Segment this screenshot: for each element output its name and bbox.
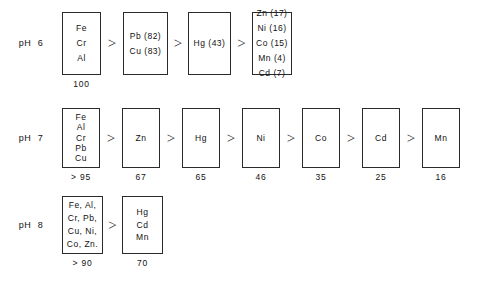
element-box-r1-c1: Zn [122,108,160,168]
element-box-r1-c4: Co [302,108,340,168]
box-value-r0-c0: 100 [73,79,90,89]
box-line: Mn [435,134,448,143]
box-line: Ni [256,134,265,143]
greater-than-separator: > [220,108,242,168]
element-box-r1-c6: Mn [422,108,460,168]
box-value-r2-c0: > 90 [73,258,93,268]
box-line: Hg (43) [194,39,226,48]
box-value-r1-c0: > 95 [71,172,91,182]
box-cell-r0-c2: Hg (43) [188,12,231,79]
ph-label-row-0: pH 6 [0,12,62,75]
element-box-r2-c0: Fe, Al, Cr, Pb, Cu, Ni, Co, Zn. [62,196,103,254]
element-box-r0-c0: Fe Cr Al [62,12,101,75]
box-cell-r1-c5: Cd 25 [362,108,400,182]
box-value-r1-c3: 46 [255,172,266,182]
box-line: Cu [75,154,87,163]
box-line: Al [77,54,86,63]
element-box-r2-c1: Hg Cd Mn [122,196,163,254]
box-line: Pb [75,144,86,153]
box-cell-r0-c3: Zn (17) Ni (16) Co (15) Mn (4) Cd (7) [252,12,292,79]
greater-than-separator: > [340,108,362,168]
element-box-r0-c3: Zn (17) Ni (16) Co (15) Mn (4) Cd (7) [252,12,292,75]
element-box-r1-c0: Fe Al Cr Pb Cu [62,108,100,168]
box-line: Ni (16) [257,24,286,33]
greater-than-separator: > [168,12,188,75]
box-line: Cd [375,134,387,143]
box-cell-r1-c4: Co 35 [302,108,340,182]
greater-than-separator: > [100,108,122,168]
greater-than-separator: > [400,108,422,168]
sequence-row-1: Fe Al Cr Pb Cu > 95 > Zn 67 > Hg [62,108,460,182]
element-box-r0-c2: Hg (43) [188,12,231,75]
greater-than-separator: > [280,108,302,168]
diagram-row-ph8: pH 8 Fe, Al, Cr, Pb, Cu, Ni, Co, Zn. > 9… [0,196,481,268]
box-cell-r1-c3: Ni 46 [242,108,280,182]
element-box-r1-c3: Ni [242,108,280,168]
box-cell-r0-c1: Pb (82) Cu (83) [123,12,168,79]
box-line: Fe [76,113,87,122]
sequence-row-0: Fe Cr Al 100 > Pb (82) Cu (83) > Hg (43) [62,12,292,89]
box-value-r1-c5: 25 [375,172,386,182]
box-line: Co [315,134,327,143]
box-cell-r2-c1: Hg Cd Mn 70 [122,196,163,268]
box-line: Al [77,123,86,132]
box-line: Fe [76,24,87,33]
element-box-r0-c1: Pb (82) Cu (83) [123,12,168,75]
element-box-r1-c5: Cd [362,108,400,168]
ph-label-row-2: pH 8 [0,196,62,254]
ph-sequence-diagram: pH 6 Fe Cr Al 100 > Pb (82) Cu (83) > [0,0,481,282]
box-line: Cd (7) [259,69,286,78]
box-line: Cu, Ni, [68,227,97,236]
box-cell-r1-c6: Mn 16 [422,108,460,182]
box-line: Hg [137,208,149,217]
box-line: Cr, Pb, [68,214,97,223]
box-value-r1-c6: 16 [435,172,446,182]
box-line: Pb (82) [130,32,161,41]
box-line: Fe, Al, [69,201,97,210]
box-cell-r1-c2: Hg 65 [182,108,220,182]
box-line: Hg [195,134,207,143]
box-line: Zn [136,134,147,143]
box-line: Mn (4) [258,54,286,63]
box-line: Cr [77,39,87,48]
ph-label-row-1: pH 7 [0,108,62,168]
box-line: Zn (17) [257,9,288,18]
box-value-r1-c4: 35 [315,172,326,182]
greater-than-separator: > [160,108,182,168]
greater-than-separator: > [101,12,123,75]
greater-than-separator: > [231,12,252,75]
box-line: Cu (83) [130,47,162,56]
box-value-r1-c1: 67 [135,172,146,182]
sequence-row-2: Fe, Al, Cr, Pb, Cu, Ni, Co, Zn. > 90 > H… [62,196,163,268]
box-cell-r1-c1: Zn 67 [122,108,160,182]
box-value-r1-c2: 65 [195,172,206,182]
box-line: Cr [76,134,86,143]
diagram-row-ph7: pH 7 Fe Al Cr Pb Cu > 95 > Zn 67 > [0,108,481,182]
box-cell-r2-c0: Fe, Al, Cr, Pb, Cu, Ni, Co, Zn. > 90 [62,196,103,268]
box-line: Mn [136,233,149,242]
element-box-r1-c2: Hg [182,108,220,168]
greater-than-separator: > [103,196,122,254]
box-line: Co, Zn. [67,240,98,249]
box-line: Co (15) [256,39,288,48]
box-cell-r1-c0: Fe Al Cr Pb Cu > 95 [62,108,100,182]
box-line: Cd [137,221,149,230]
box-value-r2-c1: 70 [137,258,148,268]
diagram-row-ph6: pH 6 Fe Cr Al 100 > Pb (82) Cu (83) > [0,12,481,89]
box-cell-r0-c0: Fe Cr Al 100 [62,12,101,89]
